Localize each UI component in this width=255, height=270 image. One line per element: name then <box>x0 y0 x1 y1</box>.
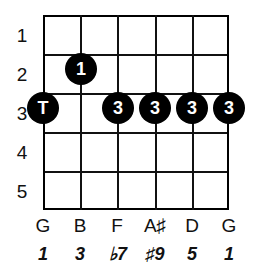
fret-number-5: 5 <box>8 182 36 201</box>
finger-marker-ring-string6[interactable]: 3 <box>213 92 245 124</box>
fret-line-4 <box>43 171 229 173</box>
finger-marker-thumb[interactable]: T <box>27 92 59 124</box>
fret-line-3 <box>43 132 229 134</box>
fret-line-top <box>43 15 229 17</box>
fret-number-4: 4 <box>8 143 36 162</box>
string-line-2 <box>80 15 82 210</box>
note-name-string-6: G <box>207 216 251 235</box>
finger-marker-ring-string3[interactable]: 3 <box>102 92 134 124</box>
fret-line-bottom <box>43 208 229 210</box>
fret-number-1: 1 <box>8 26 36 45</box>
interval-string-6: 1 <box>207 245 251 263</box>
finger-marker-ring-string5[interactable]: 3 <box>176 92 208 124</box>
finger-marker-ring-string4[interactable]: 3 <box>139 92 171 124</box>
fret-number-2: 2 <box>8 65 36 84</box>
chord-diagram: 1 2 3 4 5 T 1 3 3 3 3 G B F A♯ D G <box>0 0 255 270</box>
finger-marker-index[interactable]: 1 <box>65 53 97 85</box>
